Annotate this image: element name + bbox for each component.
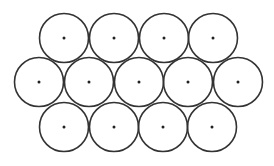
center-dot xyxy=(63,126,66,129)
center-dot xyxy=(163,37,166,40)
circle-row-bottom xyxy=(40,103,237,152)
circle-packing-diagram xyxy=(0,0,274,166)
center-dot xyxy=(187,81,190,84)
center-dot xyxy=(113,126,116,129)
center-dot xyxy=(63,37,66,40)
center-dot xyxy=(113,37,116,40)
center-dot xyxy=(38,81,41,84)
center-dot xyxy=(212,37,215,40)
center-dot xyxy=(88,81,91,84)
center-dot xyxy=(211,126,214,129)
center-dot xyxy=(162,126,165,129)
center-dot xyxy=(237,81,240,84)
circle-row-top xyxy=(40,14,238,63)
circle-row-middle xyxy=(15,58,263,107)
center-dot xyxy=(138,81,141,84)
